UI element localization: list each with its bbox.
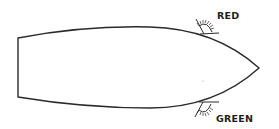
- green-light-sector-edge: [195, 102, 203, 117]
- red-light-sector-base: [200, 33, 219, 34]
- hull-outline: [18, 27, 259, 108]
- green-light-label: GREEN: [216, 114, 253, 124]
- red-light-label: RED: [217, 11, 239, 21]
- scan-speck: [202, 80, 203, 81]
- red-light-marker: [196, 19, 219, 34]
